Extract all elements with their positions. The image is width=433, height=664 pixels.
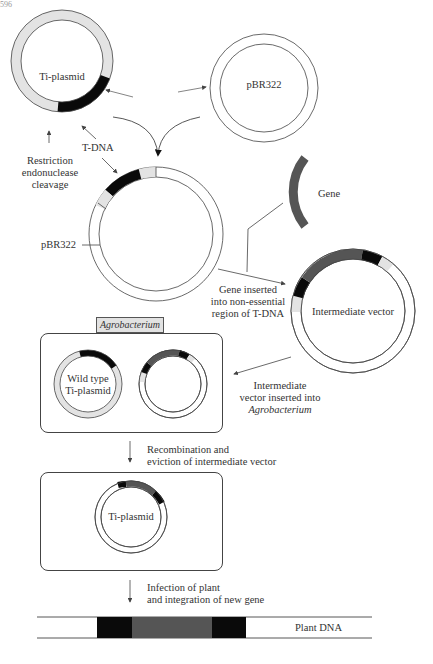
- tdna-arrow-down: [102, 158, 117, 173]
- tdna-right-border: [212, 617, 246, 638]
- agrobacterium-tag: Agrobacterium: [96, 317, 164, 333]
- arrow-to-agrobacterium: [234, 357, 291, 374]
- gene-fragment: [293, 158, 305, 226]
- gene-inserted-label: Gene inserted into non-essential region …: [208, 284, 288, 320]
- wild-type-label: Wild type Ti-plasmid: [62, 373, 114, 397]
- ti-plasmid-label-top: Ti-plasmid: [34, 71, 90, 83]
- arrow-to-intermediate: [218, 269, 285, 284]
- arrow-to-ti: [106, 90, 133, 97]
- ti-plasmid-top: [11, 10, 113, 112]
- restriction-label: Restriction endonuclease cleavage: [18, 155, 82, 191]
- ti-plasmid-label-bottom: Ti-plasmid: [104, 511, 158, 523]
- merge-curve-left: [113, 117, 158, 155]
- recombination-label: Recombination and eviction of intermedia…: [147, 444, 276, 468]
- gene-connector-line: [247, 203, 283, 272]
- tdna-arrow-up: [82, 126, 96, 139]
- inserted-gene: [132, 617, 212, 638]
- intermediate-vector-label: Intermediate vector: [308, 306, 398, 318]
- gene-label: Gene: [318, 188, 340, 200]
- plant-dna-label: Plant DNA: [295, 622, 342, 634]
- infection-label: Infection of plant and integration of ne…: [147, 582, 264, 606]
- merge-curve-right: [158, 117, 200, 155]
- combined-plasmid: [89, 167, 223, 301]
- tdna-label: T-DNA: [82, 142, 114, 154]
- pbr322-label-side: pBR322: [41, 239, 76, 251]
- arrow-to-pbr: [178, 87, 206, 92]
- inserted-into-label: Intermediate vector inserted into Agroba…: [230, 380, 330, 416]
- tdna-left-border: [97, 617, 132, 638]
- pbr322-label-top: pBR322: [234, 79, 294, 91]
